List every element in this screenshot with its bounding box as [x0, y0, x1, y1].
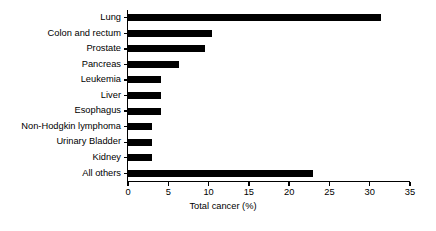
bar — [128, 14, 381, 21]
x-axis-tick — [329, 182, 330, 186]
category-label: Kidney — [93, 150, 121, 166]
bar — [128, 45, 205, 52]
bar — [128, 139, 152, 146]
x-axis-title-text: Total cancer (%) — [189, 201, 256, 211]
bar — [128, 76, 161, 83]
category-label: All others — [82, 166, 121, 182]
category-label: Urinary Bladder — [56, 134, 121, 150]
category-label: Colon and rectum — [48, 26, 121, 42]
category-label: Leukemia — [81, 72, 121, 88]
bar-row: Leukemia — [128, 72, 410, 88]
bar-row: All others — [128, 166, 410, 182]
x-axis-tick-label: 5 — [166, 187, 171, 197]
bar — [128, 123, 152, 130]
category-label: Liver — [101, 88, 121, 104]
bar-row: Esophagus — [128, 103, 410, 119]
x-axis-tick-label: 0 — [125, 187, 130, 197]
plot-area: LungColon and rectumProstatePancreasLeuk… — [128, 10, 410, 181]
x-axis-tick — [288, 182, 289, 186]
category-label: Pancreas — [82, 57, 121, 73]
bar-row: Colon and rectum — [128, 26, 410, 42]
x-axis-tick-label: 25 — [324, 187, 334, 197]
bar-chart: LungColon and rectumProstatePancreasLeuk… — [0, 0, 436, 231]
x-axis-tick — [127, 182, 128, 186]
x-axis-tick — [409, 182, 410, 186]
x-axis-tick-label: 30 — [365, 187, 375, 197]
bar — [128, 92, 161, 99]
category-label: Lung — [100, 10, 121, 26]
x-axis-line — [127, 181, 410, 182]
x-axis-tick — [168, 182, 169, 186]
category-label: Esophagus — [74, 103, 121, 119]
bar-row: Lung — [128, 10, 410, 26]
bar-row: Pancreas — [128, 57, 410, 73]
x-axis-tick-label: 10 — [203, 187, 213, 197]
bar-row: Liver — [128, 88, 410, 104]
bar-row: Prostate — [128, 41, 410, 57]
bar — [128, 170, 313, 177]
bar-row: Urinary Bladder — [128, 134, 410, 150]
x-axis-tick — [208, 182, 209, 186]
x-axis-tick-label: 15 — [244, 187, 254, 197]
bar — [128, 108, 161, 115]
x-axis-tick-label: 35 — [405, 187, 415, 197]
bar — [128, 61, 179, 68]
category-label: Non-Hodgkin lymphoma — [21, 119, 121, 135]
x-axis-tick — [248, 182, 249, 186]
bar — [128, 154, 152, 161]
category-label: Prostate — [86, 41, 121, 57]
bar-row: Kidney — [128, 150, 410, 166]
x-axis-tick-label: 20 — [284, 187, 294, 197]
x-axis-title: Total cancer (%) — [0, 201, 436, 211]
bar — [128, 30, 212, 37]
x-axis-tick — [369, 182, 370, 186]
bar-row: Non-Hodgkin lymphoma — [128, 119, 410, 135]
